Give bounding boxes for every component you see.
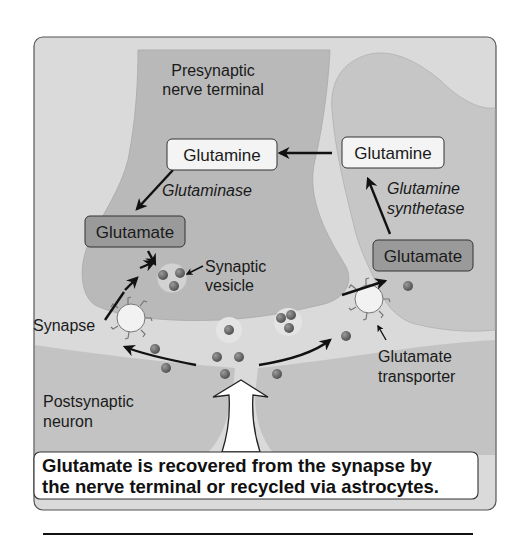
svg-text:Glutamine: Glutamine <box>354 144 431 163</box>
postsynaptic-label: Postsynaptic <box>43 393 134 410</box>
caption-box: Glutamate is recovered from the synapse … <box>34 452 478 499</box>
synaptic-vesicle-label-2: vesicle <box>205 277 254 294</box>
svg-text:the nerve terminal or recycled: the nerve terminal or recycled via astro… <box>42 476 439 497</box>
svg-text:Glutamate: Glutamate <box>96 223 174 242</box>
glutamine-synthetase-label: Glutamine <box>387 180 460 197</box>
svg-text:Glutamate: Glutamate <box>384 247 462 266</box>
synapse-label: Synapse <box>33 317 95 334</box>
glutamate-transporter-label: Glutamate <box>378 348 452 365</box>
glutamate-box-neuron: Glutamate <box>85 216 185 247</box>
glutamate-box-astrocyte: Glutamate <box>373 240 473 271</box>
glutamate-transporter-label-2: transporter <box>378 368 456 385</box>
synaptic-vesicle-label: Synaptic <box>205 258 266 275</box>
svg-text:Glutamate is recovered from th: Glutamate is recovered from the synapse … <box>42 455 432 476</box>
postsynaptic-label-2: neuron <box>43 413 93 430</box>
glutamine-synthetase-label-2: synthetase <box>387 200 464 217</box>
glutamine-box-astrocyte: Glutamine <box>342 137 444 168</box>
presynaptic-label: Presynaptic <box>171 62 255 79</box>
glutamine-box-neuron: Glutamine <box>167 139 277 170</box>
svg-text:Glutamine: Glutamine <box>183 146 260 165</box>
glutaminase-label: Glutaminase <box>162 182 252 199</box>
glutamate-recycling-diagram: Glutamine Glutamate Glutamine Glutamate … <box>0 0 521 542</box>
presynaptic-label-2: nerve terminal <box>162 81 263 98</box>
